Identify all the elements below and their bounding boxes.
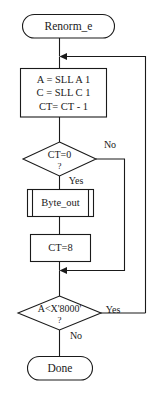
node-shift-process-line1: A = SLL A 1	[37, 74, 90, 85]
node-shift-process-line3: CT= CT - 1	[39, 101, 88, 112]
node-a-compare-condition: A<X'8000'	[38, 303, 82, 314]
node-a-compare-question-mark: ?	[58, 315, 62, 325]
label-a-compare-no: No	[70, 330, 82, 341]
label-a-compare-yes: Yes	[106, 304, 121, 315]
node-end-label: Done	[48, 362, 73, 374]
node-start-label: Renorm_e	[45, 20, 93, 32]
node-byte-out-label: Byte_out	[41, 197, 80, 208]
label-ct-zero-no: No	[104, 139, 116, 150]
node-ct-zero-condition: CT=0	[48, 149, 71, 160]
arrowhead-inner-loop-merge	[60, 267, 68, 274]
label-ct-zero-yes: Yes	[69, 175, 84, 186]
node-shift-process-line2: C = SLL C 1	[37, 87, 91, 98]
arrowhead-outer-loop-merge	[60, 53, 68, 60]
node-ct-zero-question-mark: ?	[58, 161, 62, 171]
node-ct-reset-label: CT=8	[48, 242, 73, 253]
flowchart-svg: Renorm_e A = SLL A 1 C = SLL C 1 CT= CT …	[0, 0, 158, 395]
flowchart-canvas: Renorm_e A = SLL A 1 C = SLL C 1 CT= CT …	[0, 0, 158, 395]
